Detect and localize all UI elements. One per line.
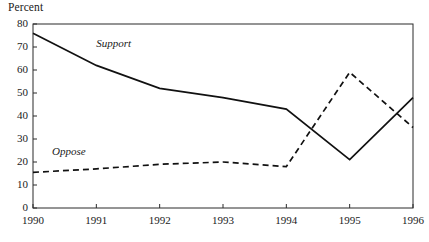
x-tick-label: 1990 [13, 214, 53, 226]
y-axis-ticks [33, 24, 37, 208]
y-tick-label: 10 [6, 178, 28, 190]
x-tick-label: 1991 [76, 214, 116, 226]
plot-frame [33, 24, 413, 208]
x-tick-label: 1996 [393, 214, 429, 226]
x-axis-ticks [33, 204, 413, 208]
x-tick-label: 1995 [330, 214, 370, 226]
y-tick-label: 60 [6, 63, 28, 75]
series-label-oppose: Oppose [52, 145, 86, 157]
series-label-support: Support [96, 37, 131, 49]
y-tick-label: 0 [6, 201, 28, 213]
y-tick-label: 80 [6, 17, 28, 29]
y-tick-label: 30 [6, 132, 28, 144]
y-tick-label: 70 [6, 40, 28, 52]
series-line-oppose [33, 72, 413, 172]
y-tick-label: 50 [6, 86, 28, 98]
series-line-support [33, 33, 413, 160]
x-tick-label: 1994 [266, 214, 306, 226]
x-tick-label: 1992 [140, 214, 180, 226]
x-tick-label: 1993 [203, 214, 243, 226]
y-tick-label: 20 [6, 155, 28, 167]
y-tick-label: 40 [6, 109, 28, 121]
